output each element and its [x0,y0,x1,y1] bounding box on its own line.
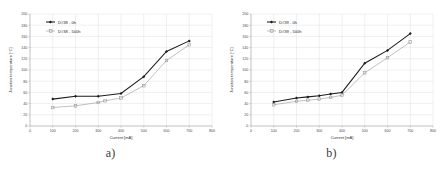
chart-a: 0204060801001201401601802000100200300400… [0,0,221,150]
chart-a-x-tick-label: 300 [95,129,101,133]
chart-a-svg: 0204060801001201401601802000100200300400… [0,0,221,150]
chart-a-x-tick-label: 600 [164,129,170,133]
chart-a-y-tick-label: 160 [21,35,27,39]
chart-b-marker-0h [329,93,332,96]
chart-b-y-tick-label: 120 [242,57,248,61]
chart-b-y-tick-label: 180 [242,24,248,28]
chart-b-marker-0h [318,94,321,97]
chart-b-y-axis-title: Junction temperature [°C] [229,47,234,92]
chart-a-y-tick-label: 80 [23,80,27,84]
chart-a-x-tick-label: 100 [50,129,56,133]
chart-b-y-tick-label: 160 [242,35,248,39]
chart-b-x-tick-label: 0 [250,129,252,133]
chart-a-legend-marker-0 [49,20,52,23]
chart-a-x-tick-label: 500 [141,129,147,133]
panel-a: 0204060801001201401601802000100200300400… [0,0,221,176]
chart-b-x-tick-label: 500 [362,129,368,133]
chart-a-x-tick-label: 0 [29,129,31,133]
chart-a-x-axis-title: Current [mA] [110,135,133,140]
chart-a-legend-label-1: D#38 - 500h [58,29,81,34]
chart-b-legend-label-1: D#39 - 500h [279,29,302,34]
chart-b-legend-label-0: D#39 - 0h [279,20,298,25]
chart-b-legend-marker-0 [270,20,273,23]
chart-a-y-tick-label: 20 [23,113,27,117]
chart-a-x-tick-label: 200 [73,129,79,133]
chart-a-legend-label-0: D#38 - 0h [58,20,77,25]
chart-b-marker-0h [272,100,275,103]
chart-a-y-tick-label: 100 [21,68,27,72]
chart-a-x-tick-label: 400 [118,129,124,133]
chart-a-y-axis-title: Junction temperature [°C] [8,47,13,92]
chart-b-y-tick-label: 20 [244,113,248,117]
figure-two-panel-charts: 0204060801001201401601802000100200300400… [0,0,442,176]
chart-b-y-tick-label: 0 [246,124,248,128]
chart-b-y-tick-label: 80 [244,80,248,84]
chart-b: 0204060801001201401601802000100200300400… [221,0,442,150]
chart-b-x-tick-label: 700 [407,129,413,133]
chart-b-y-tick-label: 200 [242,12,248,16]
panel-b-caption: b) [221,146,442,161]
chart-a-y-tick-label: 120 [21,57,27,61]
chart-b-marker-0h [295,97,298,100]
chart-a-marker-0h [51,98,54,101]
chart-b-x-tick-label: 300 [316,129,322,133]
chart-b-x-tick-label: 600 [385,129,391,133]
chart-a-marker-0h [97,95,100,98]
chart-a-y-tick-label: 140 [21,46,27,50]
chart-b-svg: 0204060801001201401601802000100200300400… [221,0,442,150]
chart-b-y-tick-label: 100 [242,68,248,72]
chart-b-x-tick-label: 100 [271,129,277,133]
chart-a-y-tick-label: 60 [23,91,27,95]
chart-a-x-tick-label: 800 [209,129,215,133]
chart-b-y-tick-label: 140 [242,46,248,50]
panel-b: 0204060801001201401601802000100200300400… [221,0,442,176]
chart-b-marker-0h [306,95,309,98]
chart-a-y-tick-label: 200 [21,12,27,16]
chart-a-marker-0h [74,95,77,98]
chart-a-plot-root: 0204060801001201401601802000100200300400… [8,12,215,140]
chart-b-x-tick-label: 400 [339,129,345,133]
chart-b-x-tick-label: 800 [430,129,436,133]
chart-b-y-tick-label: 60 [244,91,248,95]
chart-b-plot-root: 0204060801001201401601802000100200300400… [229,12,436,140]
chart-a-x-tick-label: 700 [186,129,192,133]
chart-b-y-tick-label: 40 [244,102,248,106]
panel-a-caption: a) [0,146,221,161]
chart-b-x-tick-label: 200 [294,129,300,133]
chart-b-x-axis-title: Current [mA] [331,135,354,140]
chart-a-y-tick-label: 40 [23,102,27,106]
chart-a-y-tick-label: 180 [21,24,27,28]
chart-a-y-tick-label: 0 [25,124,27,128]
